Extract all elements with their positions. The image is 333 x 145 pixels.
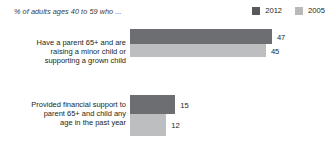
plot-area: Have a parent 65+ and are raising a mino… (0, 0, 333, 145)
bar-value-1-2005: 45 (271, 46, 279, 55)
bar-row-1-2012: 47 (130, 29, 272, 44)
bars-group-2: 15 12 (130, 95, 175, 136)
bar-2-2005[interactable] (130, 114, 166, 136)
bar-chart: % of adults ages 40 to 59 who ... 2012 2… (0, 0, 333, 145)
bar-value-2-2005: 12 (171, 121, 179, 130)
bar-value-2-2012: 15 (180, 100, 188, 109)
category-label-2-line-2: parent 65+ and child any (8, 109, 126, 118)
category-label-1-line-1: Have a parent 65+ and are (8, 38, 126, 47)
category-label-2: Provided financial support to parent 65+… (8, 100, 126, 128)
bar-value-1-2012: 47 (277, 32, 285, 41)
bar-row-2-2012: 15 (130, 95, 175, 114)
category-label-1-line-3: supporting a grown child (8, 56, 126, 65)
bar-1-2012[interactable] (130, 29, 272, 44)
bar-row-1-2005: 45 (130, 44, 272, 57)
bar-1-2005[interactable] (130, 44, 266, 57)
bar-row-2-2005: 12 (130, 114, 175, 136)
category-label-2-line-1: Provided financial support to (8, 100, 126, 109)
bar-2-2012[interactable] (130, 95, 175, 114)
category-label-1: Have a parent 65+ and are raising a mino… (8, 38, 126, 66)
category-label-2-line-3: age in the past year (8, 118, 126, 127)
category-label-1-line-2: raising a minor child or (8, 47, 126, 56)
bars-group-1: 47 45 (130, 29, 272, 57)
